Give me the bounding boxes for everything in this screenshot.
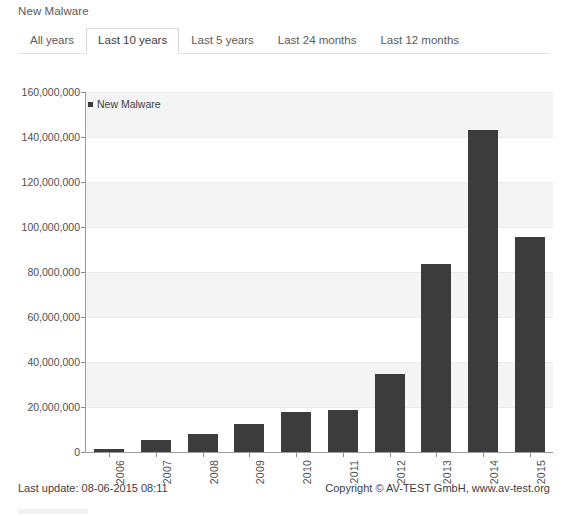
y-axis-tick-label: 120,000,000 bbox=[2, 176, 80, 188]
page-bottom-sliver bbox=[18, 509, 88, 514]
x-axis-tick-mark bbox=[203, 453, 204, 457]
bar[interactable] bbox=[515, 237, 545, 452]
tab-bar: All years Last 10 years Last 5 years Las… bbox=[18, 28, 550, 54]
x-axis-tick-mark bbox=[436, 453, 437, 457]
bar[interactable] bbox=[375, 374, 405, 452]
bar[interactable] bbox=[468, 130, 498, 452]
x-axis-tick-mark bbox=[390, 453, 391, 457]
x-axis-tick-mark bbox=[109, 453, 110, 457]
x-axis-tick-label: 2009 bbox=[254, 460, 266, 484]
x-axis-tick-label: 2014 bbox=[488, 460, 500, 484]
x-axis-tick-mark bbox=[296, 453, 297, 457]
bar[interactable] bbox=[234, 424, 264, 452]
copyright-text: Copyright © AV-TEST GmbH, www.av-test.or… bbox=[325, 482, 550, 494]
bar[interactable] bbox=[281, 412, 311, 453]
chart-footer: Last update: 08-06-2015 08:11 Copyright … bbox=[0, 482, 562, 502]
y-axis-tick-label: 80,000,000 bbox=[2, 266, 80, 278]
legend-label: New Malware bbox=[97, 98, 161, 110]
tab-last-24-months[interactable]: Last 24 months bbox=[266, 28, 369, 53]
y-axis-tick-label: 40,000,000 bbox=[2, 356, 80, 368]
x-axis-tick-label: 2015 bbox=[535, 460, 547, 484]
legend-swatch-icon bbox=[88, 102, 93, 107]
bar[interactable] bbox=[141, 440, 171, 452]
bar[interactable] bbox=[328, 410, 358, 452]
bar-chart: 020,000,00040,000,00060,000,00080,000,00… bbox=[0, 62, 562, 482]
x-axis-tick-label: 2010 bbox=[301, 460, 313, 484]
plot-area bbox=[86, 92, 553, 452]
chart-legend: New Malware bbox=[88, 98, 161, 110]
y-axis-tick-mark bbox=[81, 452, 85, 453]
x-axis-tick-mark bbox=[483, 453, 484, 457]
y-axis-tick-mark bbox=[81, 317, 85, 318]
x-axis-tick-label: 2013 bbox=[441, 460, 453, 484]
tab-last-10-years[interactable]: Last 10 years bbox=[86, 28, 179, 53]
y-axis-tick-mark bbox=[81, 407, 85, 408]
y-axis-tick-mark bbox=[81, 272, 85, 273]
x-axis-tick-mark bbox=[156, 453, 157, 457]
gridline bbox=[86, 92, 553, 93]
y-axis-tick-label: 100,000,000 bbox=[2, 221, 80, 233]
x-axis-tick-label: 2012 bbox=[395, 460, 407, 484]
y-axis-tick-label: 20,000,000 bbox=[2, 401, 80, 413]
tab-all-years[interactable]: All years bbox=[18, 28, 86, 53]
x-axis-tick-mark bbox=[343, 453, 344, 457]
x-axis-tick-label: 2007 bbox=[161, 460, 173, 484]
y-axis-tick-mark bbox=[81, 182, 85, 183]
x-axis-tick-mark bbox=[249, 453, 250, 457]
page-title: New Malware bbox=[18, 5, 89, 17]
y-axis-tick-mark bbox=[81, 92, 85, 93]
x-axis-tick-label: 2006 bbox=[114, 460, 126, 484]
last-update-text: Last update: 08-06-2015 08:11 bbox=[18, 482, 168, 494]
y-axis-tick-label: 160,000,000 bbox=[2, 86, 80, 98]
x-axis-tick-label: 2008 bbox=[208, 460, 220, 484]
y-axis-tick-mark bbox=[81, 227, 85, 228]
bar[interactable] bbox=[421, 264, 451, 452]
tab-last-5-years[interactable]: Last 5 years bbox=[179, 28, 266, 53]
y-axis-tick-label: 60,000,000 bbox=[2, 311, 80, 323]
tab-last-12-months[interactable]: Last 12 months bbox=[368, 28, 471, 53]
y-axis-tick-labels: 020,000,00040,000,00060,000,00080,000,00… bbox=[0, 62, 80, 482]
x-axis-tick-mark bbox=[530, 453, 531, 457]
y-axis-tick-label: 0 bbox=[2, 446, 80, 458]
y-axis-tick-mark bbox=[81, 137, 85, 138]
y-axis-tick-label: 140,000,000 bbox=[2, 131, 80, 143]
bar[interactable] bbox=[188, 434, 218, 452]
y-axis-line bbox=[85, 92, 86, 453]
x-axis-tick-label: 2011 bbox=[348, 460, 360, 483]
y-axis-tick-mark bbox=[81, 362, 85, 363]
